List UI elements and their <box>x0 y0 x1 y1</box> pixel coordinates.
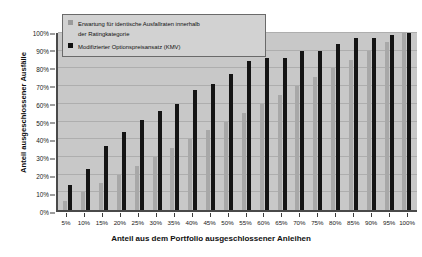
plot-area <box>56 33 417 212</box>
y-axis-tick-label: 90% <box>0 47 56 54</box>
y-axis-tick-label: 100% <box>0 30 56 37</box>
x-axis: 5%10%15%20%25%30%35%40%45%50%55%60%65%70… <box>56 214 417 226</box>
bar-group <box>327 33 345 210</box>
x-axis-tick-label: 60% <box>254 214 272 226</box>
x-axis-tick-label: 35% <box>165 214 183 226</box>
bar <box>224 122 228 211</box>
bar <box>331 68 335 210</box>
legend-item: Modifizierter Optionspreisansatz (KMV) <box>68 42 260 52</box>
bar <box>367 51 371 210</box>
bar-group <box>202 33 220 210</box>
bar <box>63 201 67 210</box>
x-axis-tick-label: 75% <box>308 214 326 226</box>
legend-swatch-dark <box>68 43 73 48</box>
bar-group <box>220 33 238 210</box>
bar-group <box>255 33 273 210</box>
bar-group <box>59 33 77 210</box>
bar-groups <box>58 33 417 210</box>
bar <box>86 169 90 210</box>
bar <box>402 33 406 210</box>
x-axis-tick-label: 80% <box>326 214 344 226</box>
bar <box>135 166 139 210</box>
bar <box>211 84 215 210</box>
bar <box>247 61 251 210</box>
x-axis-tick-label: 45% <box>201 214 219 226</box>
bar <box>68 185 72 210</box>
chart-legend: Erwartung für identische Ausfallraten in… <box>62 14 266 57</box>
bar-group <box>309 33 327 210</box>
x-axis-tick-label: 85% <box>344 214 362 226</box>
bar-group <box>291 33 309 210</box>
y-axis-tick-label: 20% <box>0 173 56 180</box>
bar-group <box>166 33 184 210</box>
bar <box>407 33 411 210</box>
bar <box>229 74 233 210</box>
x-axis-tick-label: 90% <box>362 214 380 226</box>
bar <box>175 104 179 210</box>
legend-item: Erwartung für identische Ausfallraten in… <box>68 19 260 40</box>
y-axis: 0%10%20%30%40%50%60%70%80%90%100% <box>0 33 56 212</box>
bar <box>206 130 210 210</box>
bar <box>265 58 269 210</box>
y-axis-tick-label: 30% <box>0 155 56 162</box>
bar-group <box>345 33 363 210</box>
x-axis-tick-label: 65% <box>272 214 290 226</box>
bar <box>153 157 157 210</box>
bar-group <box>113 33 131 210</box>
x-axis-title: Anteil aus dem Portfolio ausgeschlossene… <box>0 234 422 243</box>
bar <box>122 132 126 210</box>
bar <box>260 104 264 210</box>
bar <box>278 95 282 210</box>
y-axis-tick-label: 40% <box>0 137 56 144</box>
x-axis-tick-label: 25% <box>129 214 147 226</box>
bar-group <box>148 33 166 210</box>
bar-group <box>273 33 291 210</box>
bar <box>117 175 121 210</box>
x-axis-tick-label: 95% <box>380 214 398 226</box>
y-axis-tick-label: 10% <box>0 191 56 198</box>
bar-group <box>95 33 113 210</box>
x-axis-tick-label: 20% <box>111 214 129 226</box>
y-axis-tick-label: 80% <box>0 65 56 72</box>
bar <box>193 90 197 210</box>
bar <box>390 35 394 210</box>
bar-group <box>398 33 416 210</box>
legend-label: Modifizierter Optionspreisansatz (KMV) <box>78 42 180 52</box>
bar <box>372 38 376 210</box>
bar-group <box>380 33 398 210</box>
bar <box>81 192 85 210</box>
bar <box>354 38 358 210</box>
y-axis-tick-label: 0% <box>0 209 56 216</box>
y-axis-tick-label: 60% <box>0 101 56 108</box>
x-axis-tick-label: 5% <box>57 214 75 226</box>
bar <box>104 146 108 210</box>
y-axis-tick-label: 70% <box>0 83 56 90</box>
x-axis-tick-label: 70% <box>290 214 308 226</box>
x-axis-tick-label: 15% <box>93 214 111 226</box>
x-axis-tick-label: 40% <box>183 214 201 226</box>
chart-figure: Anteil ausgeschlossener Ausfälle 0%10%20… <box>0 0 422 257</box>
x-axis-tick-label: 55% <box>237 214 255 226</box>
bar <box>283 58 287 210</box>
x-axis-tick-label: 100% <box>398 214 416 226</box>
x-axis-tick-label: 30% <box>147 214 165 226</box>
bar-group <box>77 33 95 210</box>
bar <box>336 44 340 210</box>
bar-group <box>362 33 380 210</box>
bar-group <box>130 33 148 210</box>
y-axis-tick-label: 50% <box>0 119 56 126</box>
x-axis-tick-label: 50% <box>219 214 237 226</box>
bar <box>140 120 144 210</box>
bar <box>300 51 304 210</box>
bar <box>385 42 389 210</box>
x-axis-tick-label: 10% <box>75 214 93 226</box>
bar <box>349 60 353 210</box>
bar-group <box>184 33 202 210</box>
bar <box>99 183 103 210</box>
bar <box>295 86 299 210</box>
bar <box>170 148 174 210</box>
bar <box>188 139 192 210</box>
legend-label: Erwartung für identische Ausfallraten in… <box>78 19 200 40</box>
bar <box>318 51 322 210</box>
bar <box>158 111 162 210</box>
